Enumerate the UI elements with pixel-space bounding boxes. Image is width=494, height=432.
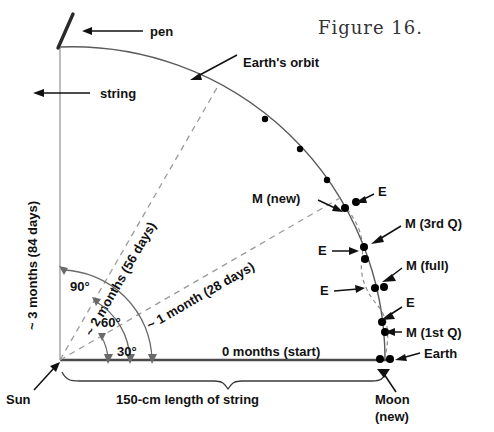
label-m-full: M (full) bbox=[406, 258, 449, 273]
orbit-dot-group bbox=[262, 116, 330, 183]
string-length-brace bbox=[62, 372, 386, 389]
pen-icon bbox=[58, 14, 73, 48]
label-earth: Earth bbox=[424, 346, 457, 361]
orbit-dot bbox=[324, 177, 330, 183]
zero-months-label: 0 months (start) bbox=[222, 344, 320, 359]
leader-earth bbox=[395, 353, 420, 361]
marker-m-new bbox=[341, 204, 349, 212]
marker-e-near-full bbox=[380, 283, 388, 291]
leader-m-full bbox=[382, 268, 402, 282]
leader-e-near-first-q bbox=[381, 307, 402, 320]
leader-m-third-q bbox=[371, 226, 401, 244]
marker-e-near-third-q bbox=[360, 243, 368, 251]
label-string-length: 150-cm length of string bbox=[116, 392, 259, 407]
label-e-near-third-q: E bbox=[318, 243, 327, 258]
label-e-near-full: E bbox=[320, 283, 329, 298]
pen-leader bbox=[82, 27, 143, 35]
three-months-label: ~ 3 months (84 days) bbox=[25, 201, 40, 330]
leader-m-new bbox=[318, 200, 343, 212]
angle-label-30: 30° bbox=[117, 344, 137, 359]
pen-label: pen bbox=[150, 24, 173, 39]
one-month-label: ~ 1 month (28 days) bbox=[144, 259, 257, 333]
label-m-third-q: M (3rd Q) bbox=[405, 216, 462, 231]
angle-label-90: 90° bbox=[70, 279, 90, 294]
label-sun: Sun bbox=[6, 392, 31, 407]
marker-m-third-q bbox=[361, 255, 369, 263]
label-m-new: M (new) bbox=[252, 191, 300, 206]
earths-orbit-leader bbox=[190, 55, 237, 80]
marker-m-full bbox=[371, 284, 379, 292]
figure-title: Figure 16. bbox=[318, 17, 423, 38]
label-e-near-new: E bbox=[378, 184, 387, 199]
label-moon-new-line2: (new) bbox=[375, 409, 409, 424]
orbit-dot bbox=[262, 116, 268, 122]
orbit-diagram: Figure 16. pen Earth's orbit string ~ 3 … bbox=[0, 0, 494, 432]
label-m-first-q: M (1st Q) bbox=[406, 325, 462, 340]
label-e-near-first-q: E bbox=[406, 295, 415, 310]
leader-e-near-third-q bbox=[332, 247, 359, 255]
two-months-radius bbox=[60, 86, 218, 360]
orbit-dot bbox=[297, 146, 303, 152]
moon-path bbox=[347, 209, 388, 357]
figure-canvas: Figure 16. pen Earth's orbit string ~ 3 … bbox=[0, 0, 494, 432]
leader-sun bbox=[34, 362, 60, 390]
string-leader bbox=[33, 89, 90, 97]
leader-e-near-full bbox=[334, 285, 365, 293]
angle-label-60: 60° bbox=[101, 315, 121, 330]
label-moon-new-line1: Moon bbox=[375, 392, 410, 407]
marker-earth-start bbox=[386, 355, 394, 363]
earths-orbit-label: Earth's orbit bbox=[243, 55, 320, 70]
marker-moon-new-start bbox=[376, 355, 384, 363]
string-label: string bbox=[100, 86, 136, 101]
